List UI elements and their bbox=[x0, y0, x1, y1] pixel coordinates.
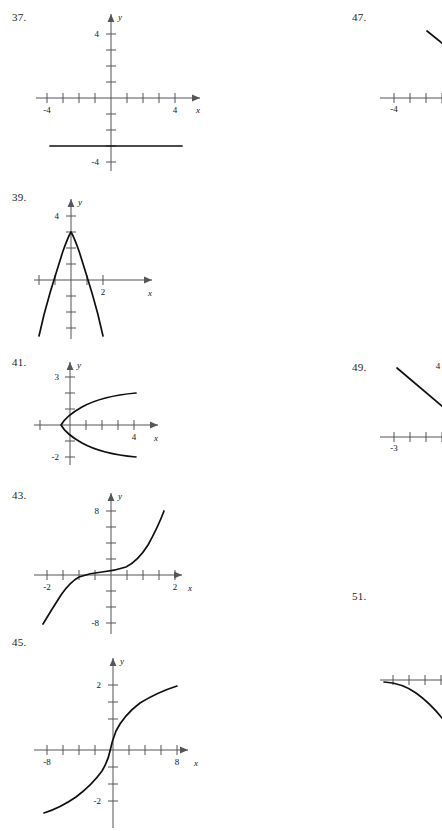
x-axis-label: x bbox=[153, 433, 158, 443]
y-axis-label: y bbox=[117, 491, 122, 501]
y-axis-label: y bbox=[119, 656, 124, 666]
problem-45: 45. bbox=[0, 0, 221, 200]
x-axis-label: x bbox=[187, 583, 192, 593]
x-tick-label-pos: 8 bbox=[175, 757, 180, 767]
x-tick-label-neg: -2 bbox=[43, 582, 51, 592]
x-axis-arrow bbox=[144, 277, 152, 284]
x-tick-label-pos: 2 bbox=[173, 582, 178, 592]
x-axis-arrow bbox=[150, 422, 158, 429]
graph-41: 3 -2 4 x y bbox=[30, 355, 180, 467]
problem-53: 53. -4 bbox=[352, 480, 442, 630]
y-axis-arrow bbox=[67, 362, 74, 370]
graph-43: -2 2 8 -8 x y bbox=[30, 487, 195, 635]
y-tick-label-pos: 4 bbox=[55, 211, 60, 221]
x-tick-label-neg: -4 bbox=[390, 104, 398, 114]
x-axis-label: x bbox=[147, 288, 152, 298]
graph-39: 4 2 x y bbox=[30, 193, 180, 341]
y-tick-label-neg: -8 bbox=[92, 618, 100, 628]
plot-cubic bbox=[43, 511, 164, 624]
x-tick-label-neg: -8 bbox=[43, 757, 51, 767]
graph-47: -4 bbox=[380, 8, 442, 128]
y-tick-label-pos: 8 bbox=[95, 506, 100, 516]
y-axis-arrow bbox=[108, 493, 115, 501]
x-axis-arrow bbox=[180, 747, 188, 754]
plot-line-clipped bbox=[427, 31, 442, 43]
problem-number-47: 47. bbox=[352, 11, 366, 23]
y-axis-arrow bbox=[68, 199, 75, 207]
problem-49: 49. 4 -3 bbox=[352, 175, 442, 290]
y-tick-label-neg: -2 bbox=[52, 452, 60, 462]
problem-number-41: 41. bbox=[12, 356, 26, 368]
problem-number-43: 43. bbox=[12, 489, 26, 501]
y-tick-label-pos: 3 bbox=[55, 372, 60, 382]
problem-55: 55. -4 bbox=[352, 630, 442, 770]
x-tick-label-pos: 4 bbox=[132, 432, 137, 442]
y-axis-label: y bbox=[76, 360, 81, 370]
problem-number-45: 45. bbox=[12, 636, 26, 648]
y-tick-label-pos: 2 bbox=[97, 680, 102, 690]
x-axis-label: x bbox=[193, 758, 198, 768]
problem-47: 47. -4 bbox=[352, 0, 442, 175]
problem-51: 51. bbox=[352, 290, 442, 480]
answer-key-page: 37. bbox=[0, 0, 442, 831]
y-tick-label-neg: -2 bbox=[94, 796, 102, 806]
y-axis-arrow bbox=[110, 658, 117, 666]
x-tick-label-pos: 2 bbox=[101, 287, 106, 297]
graph-45: -8 8 2 -2 x y bbox=[30, 645, 200, 830]
